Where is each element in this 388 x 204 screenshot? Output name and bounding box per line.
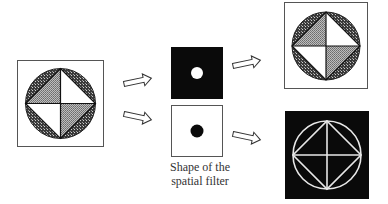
high-pass-filter — [171, 47, 223, 99]
input-pattern-image — [17, 60, 104, 147]
low-pass-output-image — [284, 2, 368, 89]
arrow-icon — [122, 70, 156, 92]
diagram-canvas: Shape of the spatial filter — [0, 0, 388, 204]
arrow-icon — [122, 106, 156, 128]
caption-line-1: Shape of the — [160, 160, 240, 174]
arrow-icon — [231, 52, 265, 74]
low-pass-filter — [171, 105, 223, 157]
arrow-icon — [231, 126, 265, 148]
filter-caption: Shape of the spatial filter — [160, 160, 240, 188]
caption-line-2: spatial filter — [160, 174, 240, 188]
high-pass-output-image — [285, 111, 369, 199]
